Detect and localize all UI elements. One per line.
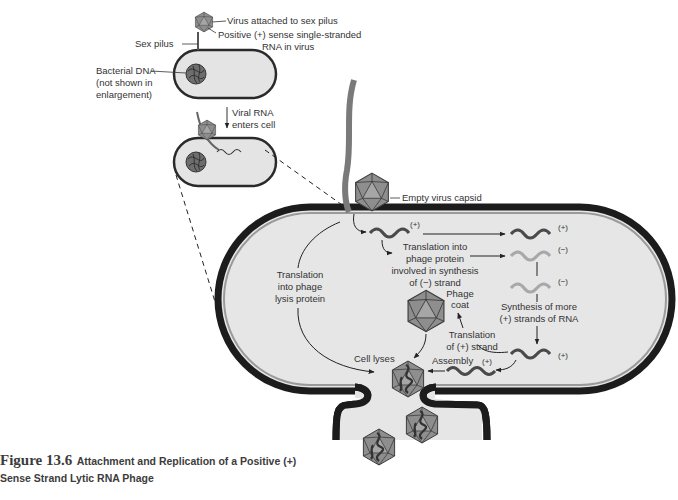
label-minus-right-1: (−) xyxy=(558,245,568,254)
figure-caption: Figure 13.6 Attachment and Replication o… xyxy=(0,452,300,486)
label-lysis-1: Translation xyxy=(277,269,324,280)
label-viral-rna-1: Viral RNA xyxy=(232,107,274,118)
label-lysis-2: into phage xyxy=(278,281,322,292)
phage-replication-diagram: Virus attached to sex pilus Sex pilus Po… xyxy=(0,0,678,500)
label-assembly: Assembly xyxy=(432,355,473,366)
label-bacterial-dna-1: Bacterial DNA xyxy=(96,65,156,76)
label-positive-rna-1: Positive (+) sense single-stranded xyxy=(218,29,361,40)
label-positive-rna-2: RNA in virus xyxy=(262,41,315,52)
enlargement-line-left xyxy=(176,175,216,305)
label-translation-phage-1: Translation into xyxy=(403,241,468,252)
label-translation-phage-2: phage protein xyxy=(406,253,464,264)
figure-number: Figure 13.6 xyxy=(0,452,72,468)
label-translation-plus-2: of (+) strand xyxy=(446,341,497,352)
label-plus-top: (+) xyxy=(410,220,420,229)
label-plus-right-2: (+) xyxy=(558,351,568,360)
label-virus-attached: Virus attached to sex pilus xyxy=(227,15,338,26)
label-sex-pilus: Sex pilus xyxy=(135,38,174,49)
label-viral-rna-2: enters cell xyxy=(232,119,275,130)
label-translation-plus-1: Translation xyxy=(449,329,496,340)
figure-title-1: Attachment and Replication of a Positive… xyxy=(77,455,297,467)
label-translation-phage-4: of (−) strand xyxy=(409,277,460,288)
label-phage-coat-2: coat xyxy=(451,299,469,310)
sex-pilus-large xyxy=(345,80,354,212)
label-plus-right-1: (+) xyxy=(558,223,568,232)
label-cell-lyses: Cell lyses xyxy=(354,353,395,364)
label-synthesis-1: Synthesis of more xyxy=(501,301,577,312)
label-bacterial-dna-3: enlargement) xyxy=(96,89,152,100)
label-empty-capsid: Empty virus capsid xyxy=(402,192,482,203)
label-translation-phage-3: involved in synthesis xyxy=(391,265,478,276)
label-phage-coat-1: Phage xyxy=(446,288,473,299)
label-plus-assembly: (+) xyxy=(482,357,492,366)
figure-title-2: Sense Strand Lytic RNA Phage xyxy=(0,472,154,484)
label-synthesis-2: (+) strands of RNA xyxy=(500,313,580,324)
label-minus-right-2: (−) xyxy=(558,277,568,286)
label-bacterial-dna-2: (not shown in xyxy=(96,77,153,88)
label-lysis-3: lysis protein xyxy=(275,293,325,304)
